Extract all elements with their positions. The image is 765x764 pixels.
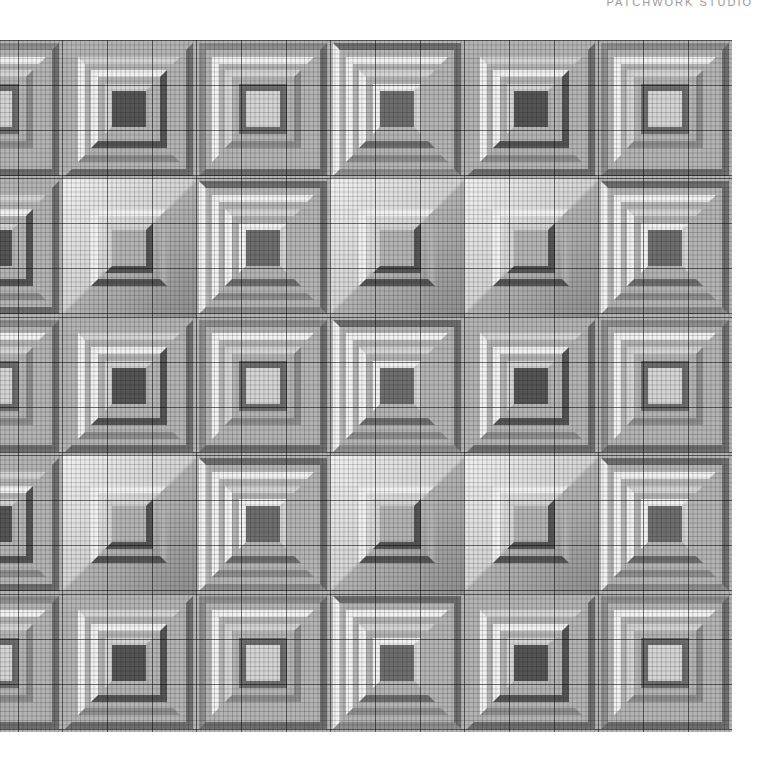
- quilt-strip: [105, 638, 153, 688]
- quilt-block-diag: [464, 455, 598, 593]
- quilt-strip: [239, 638, 287, 688]
- quilt-block-L: [464, 40, 598, 178]
- quilt-pattern-grid: [0, 40, 732, 732]
- quilt-block-ring: [598, 40, 732, 178]
- quilt-block-diag: [464, 178, 598, 316]
- quilt-block-L: [62, 594, 196, 732]
- quilt-block-diag: [330, 455, 464, 593]
- quilt-block-ring: [196, 594, 330, 732]
- quilt-strip: [641, 361, 689, 411]
- quilt-strip: [373, 638, 421, 688]
- quilt-block-L: [464, 594, 598, 732]
- quilt-block-L: [464, 317, 598, 455]
- quilt-strip: [0, 499, 19, 549]
- quilt-block-ring: [0, 594, 62, 732]
- quilt-strip: [0, 638, 19, 688]
- quilt-block-ring: [598, 317, 732, 455]
- quilt-strip: [0, 84, 19, 134]
- quilt-block-ring: [598, 594, 732, 732]
- quilt-block-box: [330, 317, 464, 455]
- quilt-block-box: [196, 455, 330, 593]
- quilt-strip: [373, 499, 421, 549]
- quilt-strip: [641, 84, 689, 134]
- quilt-strip: [105, 84, 153, 134]
- quilt-strip: [373, 223, 421, 273]
- quilt-strip: [641, 638, 689, 688]
- quilt-block-box: [598, 178, 732, 316]
- quilt-block-box: [196, 178, 330, 316]
- quilt-block-box: [330, 40, 464, 178]
- quilt-strip: [105, 499, 153, 549]
- quilt-strip: [239, 84, 287, 134]
- quilt-block-box: [330, 594, 464, 732]
- quilt-block-box: [598, 455, 732, 593]
- quilt-block-ring: [196, 317, 330, 455]
- quilt-strip: [507, 361, 555, 411]
- quilt-strip: [239, 361, 287, 411]
- quilt-strip: [105, 223, 153, 273]
- quilt-strip: [641, 223, 689, 273]
- quilt-block-ring: [0, 40, 62, 178]
- quilt-block-ring: [0, 317, 62, 455]
- quilt-block-L: [62, 40, 196, 178]
- quilt-strip: [507, 638, 555, 688]
- quilt-strip: [239, 223, 287, 273]
- quilt-block-ring: [196, 40, 330, 178]
- quilt-strip: [641, 499, 689, 549]
- page-header: PATCHWORK STUDIO: [607, 0, 753, 8]
- quilt-strip: [507, 499, 555, 549]
- quilt-strip: [507, 223, 555, 273]
- quilt-block-diag: [62, 178, 196, 316]
- quilt-block-L: [62, 317, 196, 455]
- quilt-block-diag: [62, 455, 196, 593]
- quilt-strip: [105, 361, 153, 411]
- quilt-strip: [373, 84, 421, 134]
- quilt-strip: [373, 361, 421, 411]
- quilt-block-L: [0, 455, 62, 593]
- quilt-block-L: [0, 178, 62, 316]
- quilt-strip: [0, 361, 19, 411]
- quilt-strip: [239, 499, 287, 549]
- quilt-strip: [0, 223, 19, 273]
- quilt-block-diag: [330, 178, 464, 316]
- quilt-strip: [507, 84, 555, 134]
